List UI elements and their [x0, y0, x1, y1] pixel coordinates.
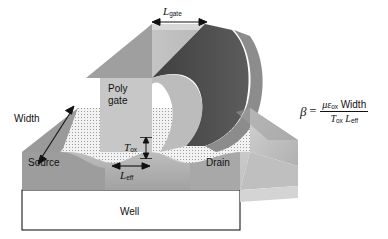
width-term: Width: [341, 99, 367, 110]
l-gate-sub: gate: [169, 10, 182, 17]
t-subscript: ox: [336, 118, 343, 125]
poly-gate-label-line2: gate: [108, 96, 127, 107]
equals-sign: =: [309, 104, 320, 119]
beta-symbol: β: [300, 104, 309, 120]
width-label: Width: [14, 114, 40, 125]
l-gate-label: Lgate: [163, 6, 182, 18]
formula-numerator: μεox Width: [320, 99, 368, 111]
l-eff-label: Leff: [120, 170, 133, 182]
beta-formula: β = μεox Width Tox Leff: [300, 99, 368, 125]
well-label: Well: [120, 207, 139, 218]
formula-fraction: μεox Width Tox Leff: [320, 99, 368, 125]
epsilon-subscript: ox: [331, 103, 338, 110]
figure-canvas: Lgate Poly gate Width Source Drain Well …: [0, 0, 388, 239]
l-eff-sub: eff: [126, 174, 133, 181]
formula-denominator: Tox Leff: [328, 112, 360, 124]
source-label: Source: [28, 158, 60, 169]
t-ox-label: Tox: [124, 142, 137, 154]
t-ox-sub: ox: [130, 146, 137, 153]
l-subscript: eff: [351, 118, 358, 125]
poly-gate-label-line1: Poly: [108, 84, 127, 95]
drain-label: Drain: [206, 158, 230, 169]
